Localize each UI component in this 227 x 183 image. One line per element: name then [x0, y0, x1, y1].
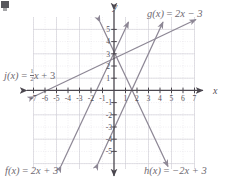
graph-figure: -7 -6 -5 -4 -3 -2 -1 1 2 3 4 5 6 7 5 4 3… — [0, 0, 227, 183]
x-tick-1: 1 — [124, 94, 128, 103]
label-g: g(x) = 2x − 3 — [147, 9, 203, 20]
y-tick--2: -2 — [106, 111, 113, 120]
label-h-name: h(x) — [144, 165, 161, 176]
x-tick-3: 3 — [147, 94, 151, 103]
y-tick--4: -4 — [106, 135, 113, 144]
x-tick--2: -2 — [88, 94, 95, 103]
label-j-const: 3 — [50, 70, 55, 81]
label-g-rhs: 2x − 3 — [175, 8, 203, 19]
label-f-equals: = — [22, 165, 28, 176]
x-tick-4: 4 — [158, 94, 162, 103]
label-j-plus: + — [41, 70, 47, 81]
label-j: j(x) = 12x + 3 — [4, 68, 55, 83]
x-axis-label: x — [213, 85, 217, 96]
label-j-equals: = — [21, 70, 27, 81]
y-axis-label: y — [113, 1, 117, 12]
label-h: h(x) = −2x + 3 — [144, 166, 207, 177]
label-j-var: x — [34, 70, 39, 81]
y-tick--5: -5 — [106, 147, 113, 156]
y-tick-2: 2 — [106, 62, 110, 71]
label-f-rhs: 2x + 3 — [31, 165, 59, 176]
y-tick-5: 5 — [106, 25, 110, 34]
x-tick--3: -3 — [76, 94, 83, 103]
label-g-equals: = — [167, 8, 173, 19]
coordinate-plane: -7 -6 -5 -4 -3 -2 -1 1 2 3 4 5 6 7 5 4 3… — [0, 0, 227, 183]
label-h-equals: = — [164, 165, 170, 176]
x-tick-6: 6 — [181, 94, 185, 103]
y-tick-4: 4 — [106, 37, 110, 46]
x-tick--7: -7 — [30, 94, 37, 103]
label-f: f(x) = 2x + 3 — [5, 166, 58, 177]
y-tick--3: -3 — [106, 123, 113, 132]
label-f-name: f(x) — [5, 165, 20, 176]
x-tick--5: -5 — [53, 94, 60, 103]
y-tick--1: -1 — [106, 98, 113, 107]
y-tick-3: 3 — [106, 50, 110, 59]
x-tick-2: 2 — [135, 94, 139, 103]
label-h-rhs: −2x + 3 — [172, 165, 207, 176]
label-j-name: j(x) — [4, 70, 19, 81]
x-tick--4: -4 — [65, 94, 72, 103]
x-tick-5: 5 — [170, 94, 174, 103]
y-tick-1: 1 — [106, 74, 110, 83]
label-g-name: g(x) — [147, 8, 164, 19]
x-tick-7: 7 — [193, 94, 197, 103]
x-tick--6: -6 — [42, 94, 49, 103]
